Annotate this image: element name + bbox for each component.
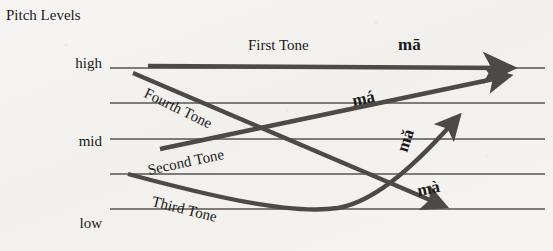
figure-stage: Pitch Levels high mid low [0, 0, 553, 251]
syllable-label-ma1: mā [398, 36, 421, 53]
tone-name-first: First Tone [248, 38, 309, 53]
tone-contour-second [160, 76, 508, 149]
syllable-label-ma4: mà [415, 178, 441, 199]
syllable-label-ma2: má [350, 88, 376, 109]
tone-contour-first [148, 66, 512, 68]
tone-contour-figure: Pitch Levels high mid low [0, 0, 553, 251]
tone-contours [128, 66, 512, 209]
